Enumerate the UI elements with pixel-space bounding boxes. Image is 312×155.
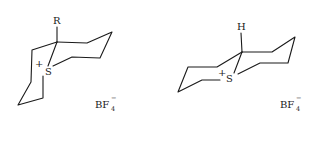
right-counterion: BF 4 −: [280, 94, 301, 113]
left-counterion-main: BF: [95, 99, 109, 110]
left-charge-label: +: [35, 58, 43, 69]
right-counterion-main: BF: [280, 99, 294, 110]
left-counterion-subscript: 4: [111, 105, 115, 113]
right-counterion-subscript: 4: [296, 105, 300, 113]
right-bridge-bond: [234, 52, 242, 73]
left-substituent-label: R: [53, 15, 61, 26]
right-counterion-superscript: −: [296, 94, 301, 102]
right-sulfur-label: S: [226, 73, 233, 84]
right-right-ring: [238, 37, 295, 74]
right-substituent-bond: [241, 33, 242, 52]
left-bridge-bond: [48, 42, 57, 66]
left-sulfonium-bicycle: R S + BF 4 −: [18, 15, 116, 113]
left-counterion-superscript: −: [111, 94, 116, 102]
right-left-ring: [178, 52, 242, 92]
diagram-canvas: R S + BF 4 − H S + BF 4 −: [0, 0, 312, 155]
left-right-ring: [53, 32, 112, 66]
right-substituent-label: H: [237, 21, 246, 32]
right-charge-label: +: [218, 67, 226, 78]
right-sulfonium-bicycle: H S + BF 4 −: [178, 21, 301, 113]
left-sulfur-label: S: [45, 66, 52, 77]
left-counterion: BF 4 −: [95, 94, 116, 113]
